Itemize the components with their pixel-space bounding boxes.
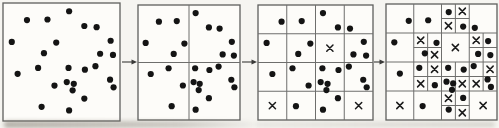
data-point-dot <box>319 65 325 71</box>
data-point-dot <box>335 95 341 101</box>
data-point-dot <box>192 65 198 71</box>
data-point-dot <box>228 77 234 83</box>
data-point-dot <box>181 40 187 46</box>
data-point-dot <box>66 8 72 14</box>
data-point-dot <box>450 80 456 86</box>
data-point-dot <box>220 51 226 57</box>
data-point-dot <box>335 67 341 73</box>
data-point-dot <box>484 76 490 82</box>
data-point-dot <box>446 106 452 112</box>
data-point-dot <box>295 51 301 57</box>
scan-shadow <box>4 121 254 128</box>
data-point-dot <box>156 19 162 25</box>
data-point-dot <box>350 51 356 57</box>
data-point-dot <box>71 81 77 87</box>
data-point-dot <box>422 50 428 56</box>
data-point-dot <box>449 87 455 93</box>
data-point-dot <box>94 24 100 30</box>
data-point-dot <box>364 84 370 90</box>
data-point-dot <box>9 39 15 45</box>
data-point-dot <box>460 95 466 101</box>
data-point-dot <box>397 71 403 77</box>
data-point-dot <box>64 79 70 85</box>
grid-refinement-figure <box>0 0 499 128</box>
data-point-dot <box>51 83 57 89</box>
data-point-dot <box>197 81 203 87</box>
data-point-dot <box>44 16 50 22</box>
data-point-dot <box>320 107 326 113</box>
data-point-dot <box>229 39 235 45</box>
data-point-dot <box>108 38 114 44</box>
data-point-dot <box>143 40 149 46</box>
arrow-head <box>252 59 258 64</box>
data-point-dot <box>361 39 367 45</box>
data-point-dot <box>346 63 352 69</box>
data-point-dot <box>347 25 353 31</box>
data-point-dot <box>406 18 412 24</box>
data-point-dot <box>110 52 116 58</box>
data-point-dot <box>110 84 116 90</box>
data-point-dot <box>66 107 72 113</box>
data-point-dot <box>293 103 299 109</box>
data-point-dot <box>206 95 212 101</box>
data-point-dot <box>15 71 21 77</box>
data-point-dot <box>166 65 172 71</box>
data-point-dot <box>53 39 59 45</box>
data-point-dot <box>278 19 284 25</box>
data-point-dot <box>180 82 186 88</box>
scan-shadow <box>255 122 495 127</box>
data-point-dot <box>471 63 477 69</box>
panel-border <box>3 3 120 121</box>
data-point-dot <box>425 17 431 23</box>
right-arrow-icon <box>374 59 385 64</box>
data-point-dot <box>215 63 221 69</box>
data-point-dot <box>264 40 270 46</box>
data-point-dot <box>433 40 439 46</box>
data-point-dot <box>485 38 491 44</box>
data-point-dot <box>92 63 98 69</box>
data-point-dot <box>41 50 47 56</box>
data-point-dot <box>360 77 366 83</box>
scatter-panel-level-0 <box>3 3 120 121</box>
data-point-dot <box>190 79 196 85</box>
data-point-dot <box>169 103 175 109</box>
data-point-dot <box>269 71 275 77</box>
data-point-dot <box>320 10 326 16</box>
data-point-dot <box>81 95 87 101</box>
arrow-head <box>380 59 386 64</box>
data-point-dot <box>391 39 397 45</box>
data-point-dot <box>24 17 30 23</box>
data-point-dot <box>193 107 199 113</box>
data-point-dot <box>70 87 76 93</box>
data-point-dot <box>363 53 369 59</box>
data-point-dot <box>81 23 87 29</box>
data-point-dot <box>475 51 481 57</box>
data-point-dot <box>318 79 324 85</box>
data-point-dot <box>420 103 426 109</box>
scatter-panel-level-2 <box>258 5 373 120</box>
data-point-dot <box>488 84 494 90</box>
data-point-dot <box>446 9 452 15</box>
data-point-dot <box>171 51 177 57</box>
data-point-dot <box>472 25 478 31</box>
scatter-panel-level-1 <box>138 5 240 120</box>
data-point-dot <box>461 66 467 72</box>
data-point-dot <box>193 10 199 16</box>
data-point-dot <box>445 65 451 71</box>
data-point-dot <box>443 79 449 85</box>
figure-canvas <box>0 0 499 128</box>
data-point-dot <box>306 82 312 88</box>
data-point-dot <box>196 87 202 93</box>
data-point-dot <box>335 24 341 30</box>
data-point-dot <box>307 40 313 46</box>
data-point-dot <box>82 67 88 73</box>
right-arrow-icon <box>242 59 257 64</box>
data-point-dot <box>324 81 330 87</box>
data-point-dot <box>323 87 329 93</box>
data-point-dot <box>231 53 237 59</box>
data-point-dot <box>217 25 223 31</box>
data-point-dot <box>487 52 493 58</box>
data-point-dot <box>416 65 422 71</box>
data-point-dot <box>460 24 466 30</box>
data-point-dot <box>65 65 71 71</box>
